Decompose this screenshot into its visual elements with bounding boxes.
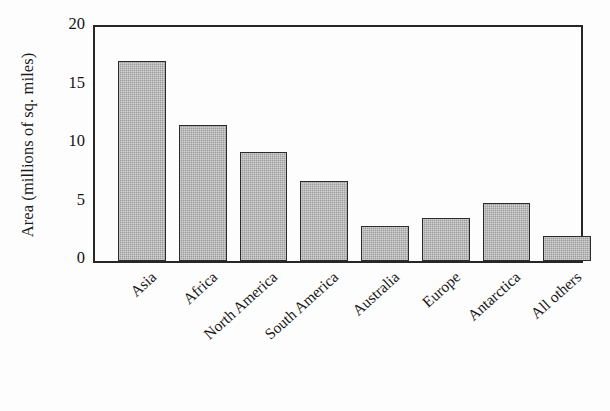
y-tick-text: 20 — [69, 16, 86, 33]
bar-asia — [118, 61, 166, 261]
y-tick-text: 5 — [77, 192, 85, 209]
bar-chart-figure: Area (millions of sq. miles) 05101520 As… — [0, 0, 610, 411]
x-tick-text: Asia — [127, 268, 160, 300]
y-tick-text: 10 — [69, 133, 86, 150]
y-axis-title-container: Area (millions of sq. miles) — [0, 0, 56, 290]
x-tick-text: Australia — [349, 268, 403, 319]
y-tick-text: 15 — [69, 75, 86, 92]
bar-africa — [179, 125, 227, 261]
x-tick-text: Antarctica — [465, 268, 525, 325]
y-tick-text: 0 — [77, 250, 85, 267]
y-axis-title: Area (millions of sq. miles) — [18, 53, 38, 238]
x-tick-text: Europe — [418, 268, 463, 311]
bar-north-america — [240, 152, 288, 261]
x-tick-text: Africa — [179, 268, 220, 308]
x-tick-text: All others — [527, 268, 585, 323]
